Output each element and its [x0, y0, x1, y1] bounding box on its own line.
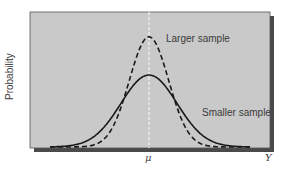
y-axis-label: Probability — [4, 53, 15, 100]
mu-tick-label: μ — [145, 152, 152, 163]
sampling-distribution-chart — [0, 0, 287, 173]
ybar-axis-label: Y — [265, 152, 272, 163]
larger-sample-label: Larger sample — [166, 33, 230, 44]
plot-area — [30, 12, 270, 148]
smaller-sample-label: Smaller sample — [202, 107, 271, 118]
